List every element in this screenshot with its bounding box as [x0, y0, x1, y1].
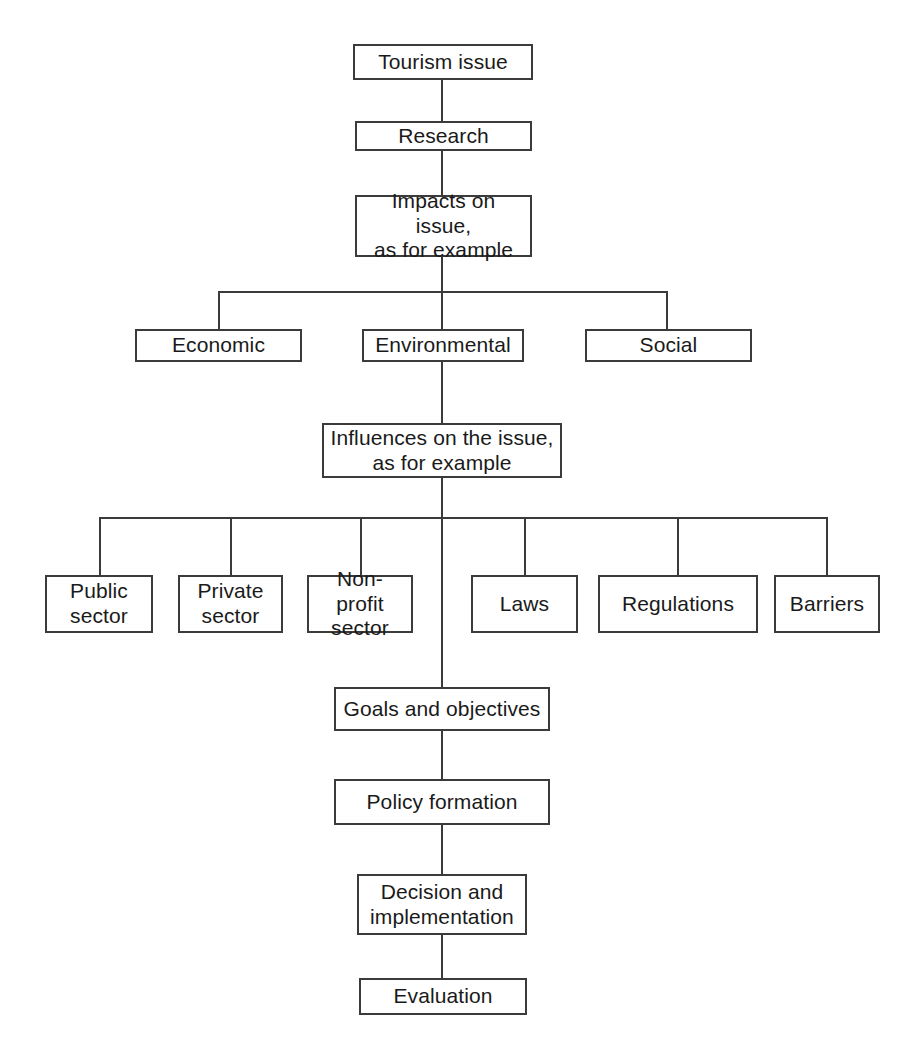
edge-branch-to-private-sector: [230, 517, 232, 575]
node-regulations-label: Regulations: [616, 592, 740, 617]
node-nonprofit-sector[interactable]: Non-profit sector: [307, 575, 413, 633]
edge-influences-stem: [441, 477, 443, 687]
edge-branch-to-regulations: [677, 517, 679, 575]
edge-impacts-branch-bar: [218, 291, 668, 293]
edge-branch-to-laws: [524, 517, 526, 575]
node-influences-label: Influences on the issue, as for example: [324, 426, 559, 476]
node-policy-formation[interactable]: Policy formation: [334, 779, 550, 825]
edge-branch-to-social: [666, 291, 668, 329]
node-policy-formation-label: Policy formation: [361, 790, 524, 815]
node-nonprofit-sector-label: Non-profit sector: [309, 567, 411, 641]
node-economic-label: Economic: [166, 333, 271, 358]
edge-branch-to-economic: [218, 291, 220, 329]
edge-environmental-to-influences: [441, 361, 443, 423]
node-public-sector-label: Public sector: [64, 579, 134, 629]
node-environmental[interactable]: Environmental: [362, 329, 524, 362]
edge-branch-to-public-sector: [99, 517, 101, 575]
edge-policy-formation-to-decision: [441, 825, 443, 875]
node-decision-and-implementation-label: Decision and implementation: [364, 880, 520, 930]
edge-impacts-stem: [441, 257, 443, 329]
node-laws-label: Laws: [494, 592, 555, 617]
node-goals-and-objectives-label: Goals and objectives: [338, 697, 547, 722]
node-evaluation-label: Evaluation: [387, 984, 498, 1009]
edge-decision-to-evaluation: [441, 935, 443, 978]
edge-tourism-issue-to-research: [441, 79, 443, 122]
node-impacts-label: Impacts on issue, as for example: [357, 189, 530, 263]
node-evaluation[interactable]: Evaluation: [359, 978, 527, 1015]
node-research[interactable]: Research: [355, 121, 532, 151]
edge-goals-to-policy-formation: [441, 730, 443, 779]
node-private-sector-label: Private sector: [191, 579, 269, 629]
node-barriers[interactable]: Barriers: [774, 575, 880, 633]
node-economic[interactable]: Economic: [135, 329, 302, 362]
node-regulations[interactable]: Regulations: [598, 575, 758, 633]
node-goals-and-objectives[interactable]: Goals and objectives: [334, 687, 550, 731]
node-public-sector[interactable]: Public sector: [45, 575, 153, 633]
node-social-label: Social: [634, 333, 704, 358]
node-tourism-issue-label: Tourism issue: [372, 50, 514, 75]
node-social[interactable]: Social: [585, 329, 752, 362]
node-influences[interactable]: Influences on the issue, as for example: [322, 423, 562, 478]
edge-branch-to-barriers: [826, 517, 828, 575]
node-barriers-label: Barriers: [784, 592, 870, 617]
node-research-label: Research: [392, 124, 495, 149]
node-private-sector[interactable]: Private sector: [178, 575, 283, 633]
node-tourism-issue[interactable]: Tourism issue: [353, 44, 533, 80]
node-laws[interactable]: Laws: [471, 575, 578, 633]
node-impacts[interactable]: Impacts on issue, as for example: [355, 195, 532, 257]
edge-influences-branch-bar: [99, 517, 828, 519]
node-decision-and-implementation[interactable]: Decision and implementation: [357, 874, 527, 935]
node-environmental-label: Environmental: [369, 333, 517, 358]
flowchart-canvas: Tourism issue Research Impacts on issue,…: [0, 0, 922, 1049]
